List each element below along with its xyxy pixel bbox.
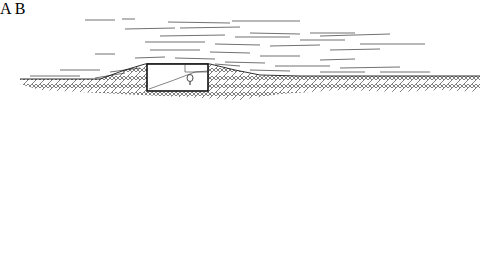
- buried-chamber-a: [147, 64, 208, 91]
- earth-hatch-a: [20, 64, 480, 100]
- panel-a: [20, 19, 480, 100]
- diagram-canvas: [0, 0, 500, 273]
